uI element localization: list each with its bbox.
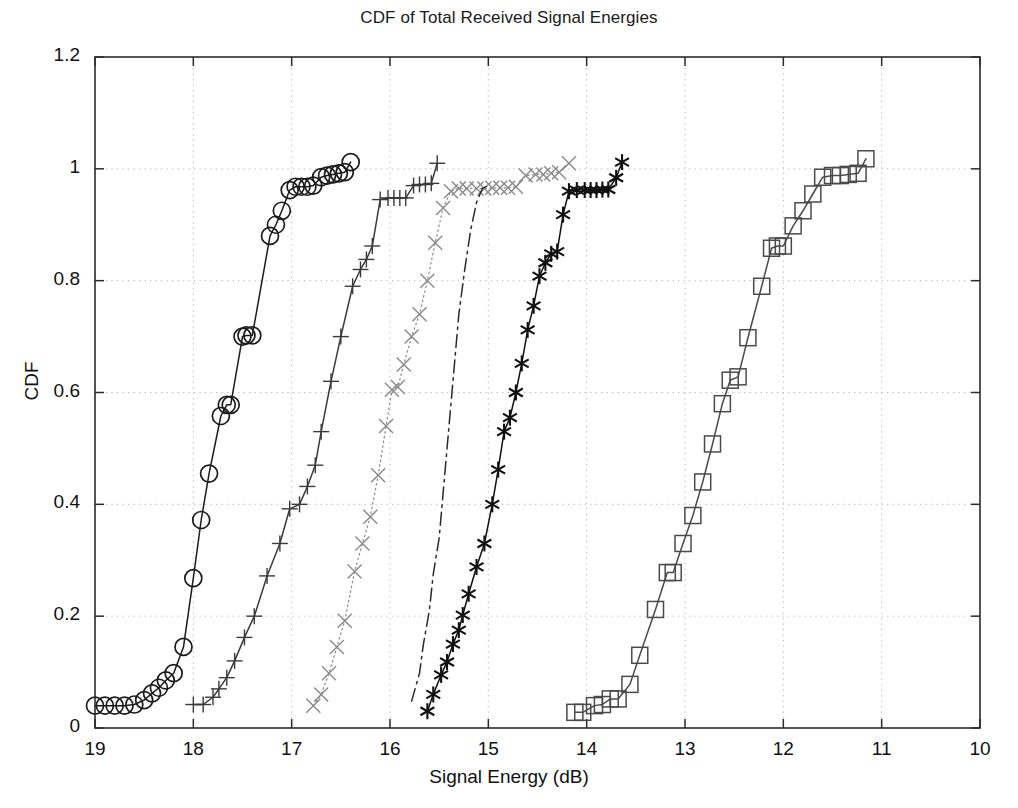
x-tick-label: 19: [65, 738, 125, 760]
x-tick-label: 11: [852, 738, 912, 760]
x-tick-label: 10: [950, 738, 1010, 760]
x-tick-label: 13: [655, 738, 715, 760]
y-axis-label: CDF: [21, 331, 43, 431]
x-tick-label: 18: [163, 738, 223, 760]
x-axis-label: Signal Energy (dB): [0, 766, 1018, 788]
x-tick-label: 15: [458, 738, 518, 760]
x-tick-label: 16: [360, 738, 420, 760]
x-tick-label: 14: [557, 738, 617, 760]
x-tick-label: 17: [262, 738, 322, 760]
chart-figure: CDF of Total Received Signal Energies 00…: [0, 0, 1018, 808]
x-tick-label: 12: [753, 738, 813, 760]
x-axis-tick-labels: 19181716151413121110: [0, 0, 1018, 808]
